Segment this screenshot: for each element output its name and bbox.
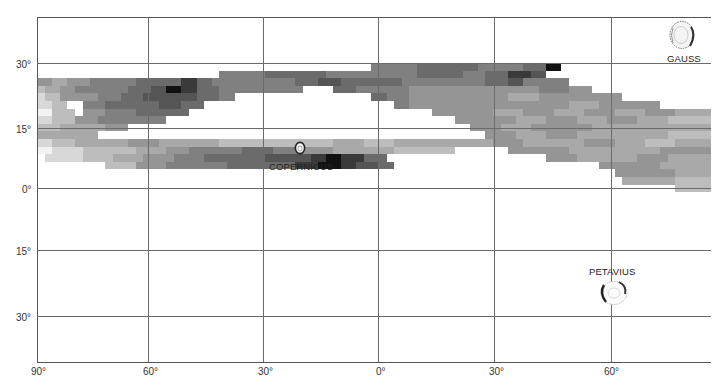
gridline-lon-30w — [263, 17, 264, 362]
copernicus-crater-icon — [294, 141, 306, 155]
copernicus-label: COPERNICUS — [269, 161, 333, 172]
petavius-label: PETAVIUS — [589, 266, 635, 277]
petavius-crater-icon — [597, 278, 631, 308]
right-edge — [711, 0, 716, 387]
gridline-lon-60e — [611, 17, 612, 362]
x-tick-60w: 60° — [143, 367, 158, 377]
gridline-lon-0 — [378, 17, 379, 362]
lunar-map-chart: 30° 15° 0° 15° 30° 90° 60° 30° 0° 30° 60… — [0, 0, 716, 387]
gauss-label: GAUSS — [667, 53, 701, 64]
y-tick-30s: 30° — [16, 313, 31, 323]
x-tick-60e: 60° — [604, 367, 619, 377]
gridline-lat-15s — [37, 250, 713, 251]
gridline-lat-30s — [37, 316, 713, 317]
gridline-lat-15n — [37, 128, 713, 129]
y-tick-15s: 15° — [16, 247, 31, 257]
x-tick-90w: 90° — [31, 367, 46, 377]
gauss-crater-icon — [667, 19, 697, 51]
gridline-lon-60w — [148, 17, 149, 362]
y-tick-0: 0° — [22, 185, 32, 195]
x-tick-0: 0° — [376, 367, 386, 377]
gridline-lat-0 — [37, 188, 713, 189]
gridline-lat-30n — [37, 63, 713, 64]
x-tick-30w: 30° — [258, 367, 273, 377]
gridline-lon-30e — [494, 17, 495, 362]
y-tick-15n: 15° — [16, 125, 31, 135]
x-tick-30e: 30° — [489, 367, 504, 377]
y-tick-30n: 30° — [16, 60, 31, 70]
